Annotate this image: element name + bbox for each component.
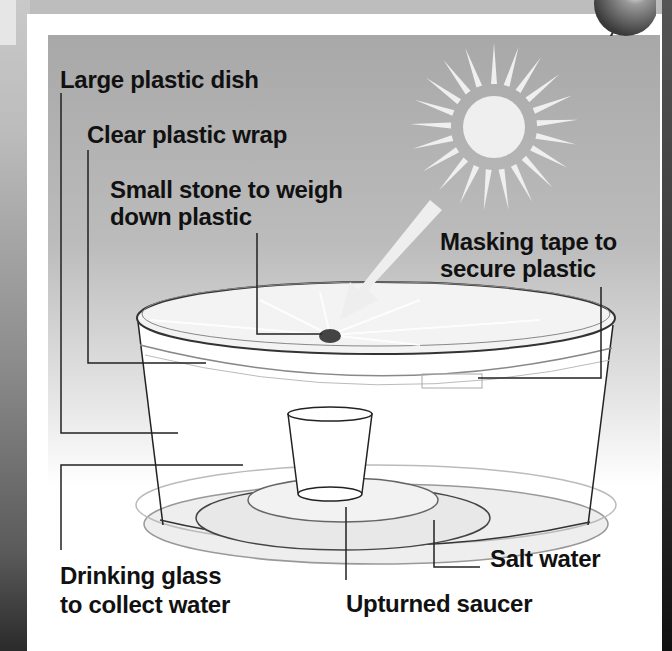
label-glass-line2: to collect water	[60, 591, 230, 618]
label-large-dish: Large plastic dish	[60, 66, 259, 93]
label-tape-line2: secure plastic	[440, 255, 596, 282]
stone-icon	[319, 329, 341, 343]
pushpin-icon	[586, 0, 656, 36]
label-glass-line1: Drinking glass	[60, 562, 221, 589]
glass-icon	[288, 407, 372, 501]
label-plastic-wrap: Clear plastic wrap	[87, 121, 287, 148]
label-saucer: Upturned saucer	[346, 590, 532, 617]
label-stone-line2: down plastic	[110, 203, 252, 230]
label-tape-line1: Masking tape to	[440, 228, 617, 255]
sun-icon	[410, 43, 578, 211]
label-salt-water: Salt water	[490, 545, 600, 572]
label-stone-line1: Small stone to weigh	[110, 176, 343, 203]
